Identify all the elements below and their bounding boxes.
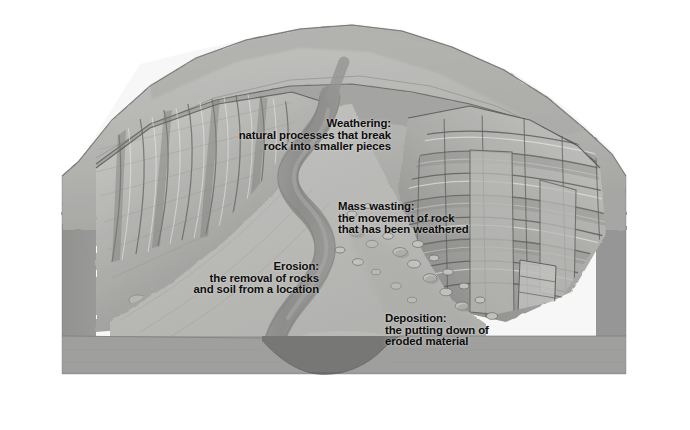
mass-wasting-label-title: Mass wasting:: [338, 201, 498, 213]
deposition-label-title: Deposition:: [385, 313, 535, 325]
erosion-label-line2: and soil from a location: [178, 284, 319, 296]
diagram-canvas: Weathering: natural processes that break…: [0, 0, 690, 430]
deposition-label-line2: eroded material: [385, 336, 535, 348]
erosion-label-title: Erosion:: [178, 261, 319, 273]
erosion-label: Erosion: the removal of rocks and soil f…: [178, 261, 319, 296]
mass-wasting-label: Mass wasting: the movement of rock that …: [338, 201, 498, 236]
mass-wasting-label-line2: that has been weathered: [338, 224, 498, 236]
weathering-label-line2: rock into smaller pieces: [227, 141, 391, 153]
weathering-label: Weathering: natural processes that break…: [227, 118, 391, 153]
deposition-label: Deposition: the putting down of eroded m…: [385, 313, 535, 348]
weathering-label-title: Weathering:: [227, 118, 391, 130]
